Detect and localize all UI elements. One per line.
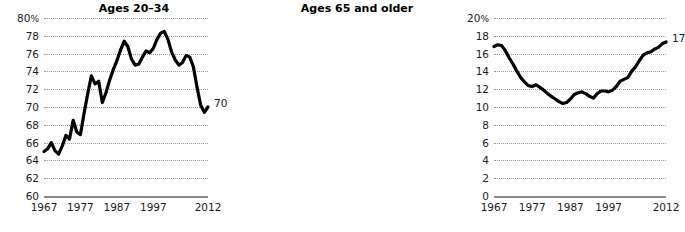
plot-area-left: 6062646668707274767880%19671977198719972… — [44, 18, 208, 196]
end-value-label-left: 70 — [214, 97, 227, 109]
series-path-right — [494, 42, 666, 103]
y-axis-tick-label: 14 — [476, 65, 494, 77]
x-axis-tick-label: 1997 — [595, 201, 622, 213]
x-axis-tick-label: 1977 — [519, 201, 546, 213]
y-axis-tick-label: 10 — [476, 101, 494, 113]
chart-title-right: Ages 65 and older — [231, 2, 473, 15]
series-line-right — [494, 18, 666, 196]
end-value-label-right: 17 — [672, 32, 685, 44]
y-axis-tick-label: 12 — [476, 83, 494, 95]
chart-panel-ages-20-34: Ages 20–34 6062646668707274767880%196719… — [0, 0, 232, 232]
x-axis-tick-label: 1977 — [67, 201, 94, 213]
y-axis-tick-label: 66 — [26, 137, 44, 149]
y-axis-tick-label: 72 — [26, 83, 44, 95]
y-axis-tick-label: 64 — [26, 154, 44, 166]
x-axis-tick-label: 1987 — [557, 201, 584, 213]
y-axis-tick-label: 62 — [26, 172, 44, 184]
axis-baseline — [44, 196, 208, 198]
y-axis-tick-label: 2 — [482, 172, 494, 184]
x-axis-tick-label: 1967 — [31, 201, 58, 213]
y-axis-tick-label: 6 — [482, 137, 494, 149]
y-axis-tick-label: 16 — [476, 48, 494, 60]
x-axis-tick-label: 1967 — [481, 201, 508, 213]
y-axis-tick-label: 78 — [26, 30, 44, 42]
y-axis-tick-label: 68 — [26, 119, 44, 131]
series-line-left — [44, 18, 208, 196]
y-axis-unit-suffix: % — [480, 14, 489, 24]
y-axis-tick-label: 4 — [482, 154, 494, 166]
y-axis-tick-label: 80% — [17, 12, 44, 24]
series-path-left — [44, 31, 208, 154]
y-axis-tick-label: 70 — [26, 101, 44, 113]
y-axis-unit-suffix: % — [30, 14, 39, 24]
y-axis-tick-label: 76 — [26, 48, 44, 60]
y-axis-tick-label: 18 — [476, 30, 494, 42]
plot-area-right: 02468101214161820%19671977198719972012 — [494, 18, 666, 196]
x-axis-tick-label: 1997 — [140, 201, 167, 213]
x-axis-tick-label: 1987 — [104, 201, 131, 213]
x-axis-tick-label: 2012 — [653, 201, 680, 213]
y-axis-tick-label: 20% — [467, 12, 494, 24]
axis-baseline — [494, 196, 666, 198]
y-axis-tick-label: 8 — [482, 119, 494, 131]
y-axis-tick-label: 74 — [26, 65, 44, 77]
x-axis-tick-label: 2012 — [195, 201, 222, 213]
chart-panel-ages-65-and-older: Ages 65 and older 02468101214161820%1967… — [231, 0, 463, 232]
